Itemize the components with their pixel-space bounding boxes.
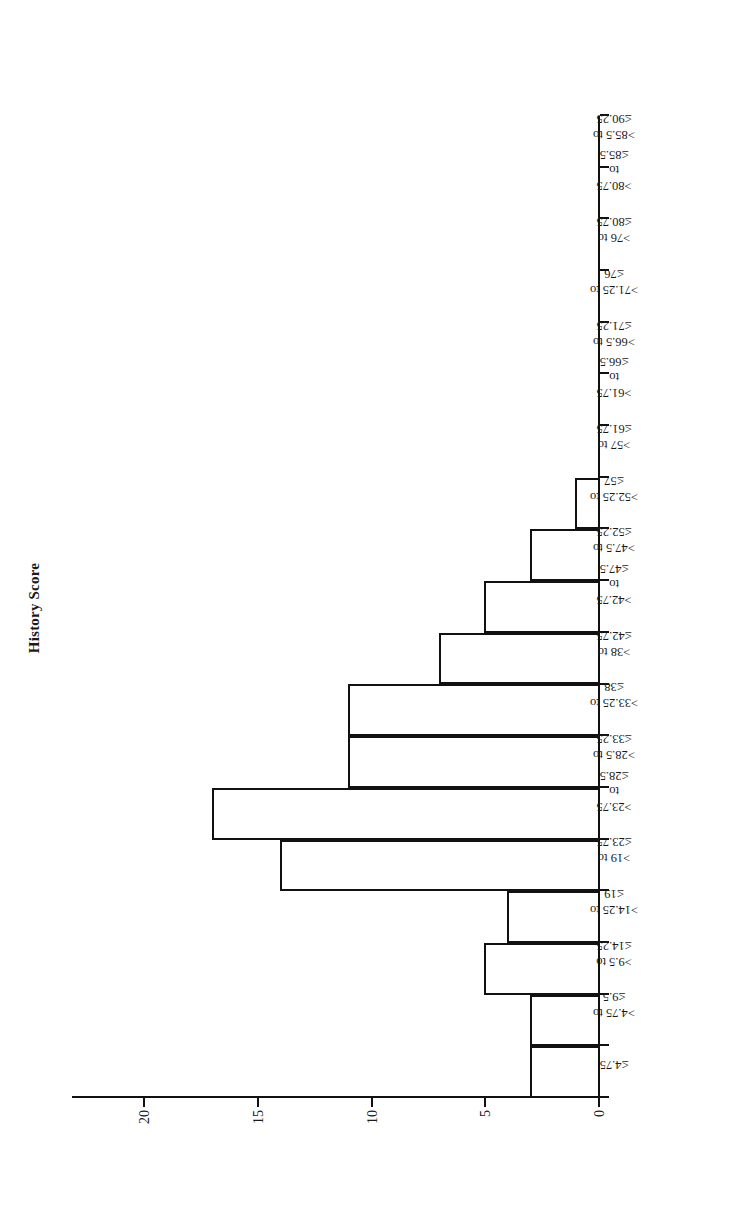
bar	[348, 736, 598, 788]
x-tick	[600, 1044, 609, 1046]
bar-cell	[100, 685, 598, 737]
x-label-cell: >9.5 to≤14.25	[612, 943, 732, 995]
bar	[484, 943, 598, 995]
histogram-figure: History Score Number of Cases 05101520 ≤…	[0, 0, 740, 1216]
y-tick-0	[598, 1098, 600, 1107]
x-tick-label-line: >66.5 to	[593, 333, 635, 349]
y-tick-5	[484, 1098, 486, 1107]
bar	[212, 788, 598, 840]
chart-title: History Score	[26, 0, 43, 1216]
x-tick-label-line: >23.75	[596, 798, 631, 814]
x-label-cell: >47.5 to≤52.25	[612, 529, 732, 581]
bar-group	[100, 116, 598, 1098]
x-label-cell: >71.25 to≤76	[612, 271, 732, 323]
bar	[530, 995, 598, 1047]
y-tick-label: 15	[252, 1110, 266, 1144]
bar-cell	[100, 736, 598, 788]
bar	[530, 1046, 598, 1098]
x-tick-label-line: >19 to	[597, 850, 632, 866]
x-label-cell: >19 to≤23.75	[612, 840, 732, 892]
bar-cell	[100, 943, 598, 995]
x-tick-label-line: >80.75	[596, 178, 631, 194]
x-tick-label-line: >4.75 to	[593, 1005, 635, 1021]
x-tick-label-line: >42.75	[596, 591, 631, 607]
y-tick-label: 10	[366, 1110, 380, 1144]
x-label-cell: >76 to≤80.75	[612, 219, 732, 271]
x-label-cell: >42.75to≤47.5	[612, 581, 732, 633]
x-label-cell: ≤4.75	[612, 1046, 732, 1098]
x-label-cell: >52.25 to≤57	[612, 478, 732, 530]
bar-cell	[100, 1046, 598, 1098]
bar-cell	[100, 426, 598, 478]
x-tick-label-line: >14.25 to	[590, 901, 638, 917]
x-tick-label-group: ≤4.75>4.75 to≤9.5>9.5 to≤14.25>14.25 to≤…	[612, 116, 732, 1098]
x-label-cell: >85.5 to≤90.25	[612, 116, 732, 168]
x-label-cell: >38 to≤42.75	[612, 633, 732, 685]
bar-cell	[100, 374, 598, 426]
y-tick-20	[143, 1098, 145, 1107]
bar	[507, 891, 598, 943]
x-tick-label-line: >38 to	[597, 643, 632, 659]
x-tick-label-line: >52.25 to	[590, 488, 638, 504]
bar-cell	[100, 840, 598, 892]
x-label-cell: >80.75to≤85.5	[612, 168, 732, 220]
bar-cell	[100, 529, 598, 581]
x-label-cell: >4.75 to≤9.5	[612, 995, 732, 1047]
bar-cell	[100, 891, 598, 943]
x-tick-label-line: >85.5 to	[593, 126, 635, 142]
bar	[348, 685, 598, 737]
bar-cell	[100, 633, 598, 685]
x-label-cell: >23.75to≤28.5	[612, 788, 732, 840]
y-tick-15	[257, 1098, 259, 1107]
x-tick-label-line: >28.5 to	[593, 746, 635, 762]
bar-cell	[100, 995, 598, 1047]
x-tick-label: ≤4.75	[600, 1057, 629, 1073]
x-label-cell: >33.25 to≤38	[612, 685, 732, 737]
x-label-cell: >61.75to≤66.5	[612, 374, 732, 426]
y-tick-label: 20	[138, 1110, 152, 1144]
x-tick-label-line: >76 to	[597, 230, 632, 246]
x-tick-label-line: ≤4.75	[600, 1057, 629, 1073]
y-tick-label: 0	[593, 1110, 607, 1144]
y-tick-label: 5	[479, 1110, 493, 1144]
x-label-cell: >14.25 to≤19	[612, 891, 732, 943]
bar-cell	[100, 581, 598, 633]
x-tick-label-line: >9.5 to	[596, 953, 632, 969]
x-label-cell: >28.5 to≤33.25	[612, 736, 732, 788]
x-tick-label-line: ≤90.25	[593, 111, 635, 127]
plot-area: 05101520	[100, 116, 600, 1098]
x-label-cell: >57 to≤61.75	[612, 426, 732, 478]
bar	[280, 840, 598, 892]
x-tick	[600, 1096, 609, 1098]
x-tick-label-line: >61.75	[596, 385, 631, 401]
x-tick-label-line: >71.25 to	[590, 281, 638, 297]
bar	[439, 633, 598, 685]
bar-cell	[100, 323, 598, 375]
bar	[484, 581, 598, 633]
bar-cell	[100, 168, 598, 220]
bar	[530, 529, 598, 581]
x-tick-label-line: >33.25 to	[590, 695, 638, 711]
y-tick-10	[371, 1098, 373, 1107]
bar-cell	[100, 478, 598, 530]
x-tick-label-line: >57 to	[597, 436, 632, 452]
bar-cell	[100, 271, 598, 323]
x-tick-label: >85.5 to≤90.25	[593, 111, 635, 142]
bar-cell	[100, 788, 598, 840]
x-label-cell: >66.5 to≤71.25	[612, 323, 732, 375]
bar-cell	[100, 219, 598, 271]
x-tick-label-line: >47.5 to	[593, 540, 635, 556]
bar-cell	[100, 116, 598, 168]
